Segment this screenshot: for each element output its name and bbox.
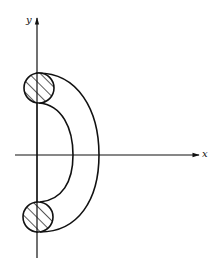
diagram-canvas: [0, 0, 224, 272]
inner-arc: [39, 103, 73, 202]
top-cross-section: [24, 73, 54, 103]
bottom-cross-section: [23, 202, 53, 232]
y-axis-label: y: [26, 14, 32, 25]
x-axis-label: x: [202, 148, 208, 159]
